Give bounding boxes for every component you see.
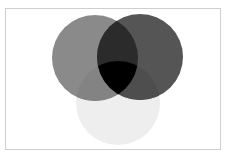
venn-diagram bbox=[0, 0, 228, 159]
